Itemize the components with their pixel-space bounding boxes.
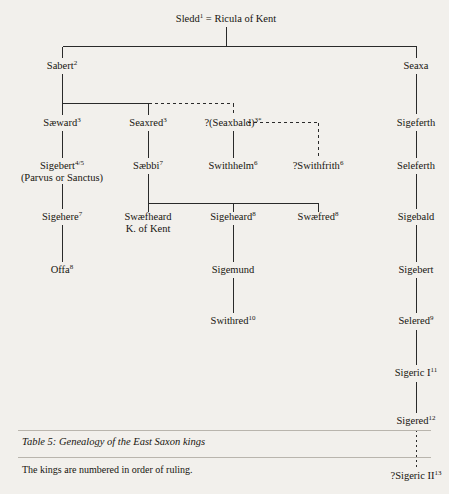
node-sup-sabert: 2: [74, 59, 78, 67]
node-sledd-ricula: Sledd1 = Ricula of Kent: [176, 13, 276, 25]
node-label-sigeheard: Sigeheard: [210, 211, 252, 222]
node-swaefred: Swæfred8: [298, 211, 339, 223]
node-sup-swithfrith: 6: [340, 159, 344, 167]
node-label-sabert: Sabert: [47, 60, 74, 71]
node-sup-sigered: 12: [429, 414, 436, 422]
node-swithred: Swithred10: [211, 315, 256, 327]
node-label-seaxa: Seaxa: [403, 60, 428, 71]
node-sup-seaxbald: 3*: [255, 116, 262, 124]
node-sup-swithhelm: 6: [254, 159, 258, 167]
node-sup-sigeric-i: 11: [431, 366, 438, 374]
node-label-sigeric-i: Sigeric I: [395, 367, 431, 378]
genealogy-diagram: Sledd1 = Ricula of Kent Sabert2 Seaxa Sæ…: [0, 0, 449, 494]
node-sigeferth: Sigeferth: [397, 117, 436, 129]
node-sup-swaefred: 8: [335, 210, 339, 218]
node-sabert: Sabert2: [47, 60, 77, 72]
node-seaxa: Seaxa: [403, 60, 428, 72]
node-sigebert-right: Sigebert: [399, 264, 434, 276]
node-label-seaxred: Seaxred: [129, 117, 163, 128]
node-sup-swithred: 10: [248, 314, 255, 322]
node-label-sigebert-right: Sigebert: [399, 264, 434, 275]
node-sup-sigehere: 7: [79, 210, 83, 218]
node-saebbi: Sæbbi7: [133, 160, 163, 172]
node-sup-sledd: 1: [200, 12, 204, 20]
node-label-sigered: Sigered: [396, 415, 428, 426]
caption-rule-bottom: [18, 457, 431, 458]
node-label-swaefheard: Swæfheard: [124, 211, 171, 222]
node-label-sigehere: Sigehere: [42, 211, 79, 222]
node-sup-sigebert-parvus: 4/5: [75, 159, 84, 167]
node-sigebald: Sigebald: [398, 211, 435, 223]
node-sigeric-ii: ?Sigeric II13: [390, 470, 441, 482]
table-caption: Table 5: Genealogy of the East Saxon kin…: [22, 436, 205, 447]
node-label-swaefred: Swæfred: [298, 211, 335, 222]
node-label-swaefheard-title: K. of Kent: [124, 223, 171, 235]
node-label-swithhelm: Swithhelm: [208, 160, 254, 171]
node-selered: Selered9: [399, 315, 434, 327]
node-sigeheard: Sigeheard8: [210, 211, 256, 223]
node-label-sigebert-epithet: (Parvus or Sanctus): [21, 172, 103, 184]
node-label-saebbi: Sæbbi: [133, 160, 159, 171]
node-label-seaxbald: ?(Seaxbald): [204, 117, 254, 128]
node-sigehere: Sigehere7: [42, 211, 82, 223]
node-saeward: Sæward3: [43, 117, 80, 129]
node-sup-selered: 9: [430, 314, 434, 322]
node-label-sigemund: Sigemund: [212, 264, 255, 275]
node-seaxbald: ?(Seaxbald)3*: [204, 117, 261, 129]
node-sup-saebbi: 7: [159, 159, 163, 167]
node-label-sigeric-ii: ?Sigeric II: [390, 470, 434, 481]
node-label-offa: Offa: [51, 264, 70, 275]
node-label-sledd: Sledd: [176, 13, 200, 24]
node-label-swithfrith: ?Swithfrith: [293, 160, 340, 171]
caption-rule-top: [18, 430, 431, 431]
node-label-seleferth: Seleferth: [397, 160, 435, 171]
node-sup-sigeric-ii: 13: [435, 469, 442, 477]
node-sigered: Sigered12: [396, 415, 435, 427]
node-sigeric-i: Sigeric I11: [395, 367, 438, 379]
node-swithhelm: Swithhelm6: [208, 160, 257, 172]
numbering-note: The kings are numbered in order of rulin…: [22, 464, 193, 475]
node-sup-sigeheard: 8: [252, 210, 256, 218]
node-offa: Offa8: [51, 264, 74, 276]
connector-lines: [0, 0, 449, 494]
node-label-sigeferth: Sigeferth: [397, 117, 436, 128]
node-swaefheard: Swæfheard K. of Kent: [124, 211, 171, 234]
marriage-symbol: =: [206, 13, 212, 24]
node-label-selered: Selered: [399, 315, 431, 326]
node-label-sigebald: Sigebald: [398, 211, 435, 222]
node-label-swithred: Swithred: [211, 315, 249, 326]
node-seleferth: Seleferth: [397, 160, 435, 172]
node-label-sigebert-parvus: Sigebert: [40, 160, 75, 171]
node-sigemund: Sigemund: [212, 264, 255, 276]
node-swithfrith: ?Swithfrith6: [293, 160, 344, 172]
node-sigebert-parvus: Sigebert4/5 (Parvus or Sanctus): [21, 160, 103, 183]
node-sup-seaxred: 3: [163, 116, 167, 124]
node-label-saeward: Sæward: [43, 117, 77, 128]
node-sup-saeward: 3: [77, 116, 81, 124]
node-label-ricula: Ricula of Kent: [214, 13, 276, 24]
node-seaxred: Seaxred3: [129, 117, 166, 129]
node-sup-offa: 8: [70, 263, 74, 271]
